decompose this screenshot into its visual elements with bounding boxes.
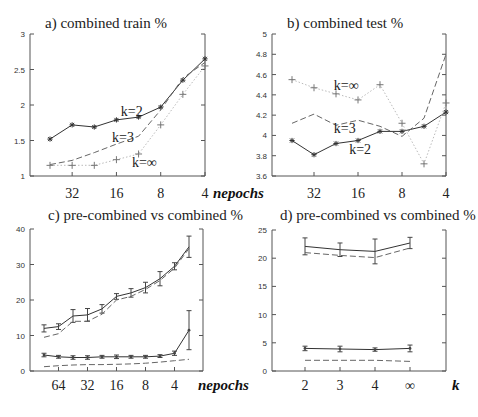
- y-tick-label: 2.5: [14, 66, 26, 75]
- series-annotation: k=2: [349, 142, 371, 157]
- y-tick-label: 2: [21, 101, 26, 110]
- data-point: [374, 348, 377, 351]
- y-tick-label: 20: [258, 254, 267, 263]
- data-point: [159, 355, 162, 358]
- y-tick-label: 3: [21, 30, 26, 39]
- y-tick-label: 4.8: [256, 50, 268, 59]
- series-k-2: [47, 56, 207, 141]
- data-point: [188, 329, 191, 332]
- series-line: [292, 54, 446, 136]
- x-tick-label: 32: [307, 186, 321, 201]
- panel-b: b) combined test %3.63.844.24.44.64.8532…: [256, 15, 450, 201]
- x-axis-label: k: [452, 377, 460, 393]
- data-point: [72, 356, 75, 359]
- series-upper-dashed: [305, 248, 410, 258]
- y-tick-label: 3.6: [256, 172, 268, 181]
- y-tick-label: 0: [263, 367, 268, 376]
- data-point: [115, 355, 118, 358]
- figure: a) combined train %11.522.53321684nepoch…: [0, 0, 478, 417]
- x-tick-label: 8: [157, 186, 164, 201]
- y-tick-label: 40: [16, 225, 25, 234]
- series-line: [305, 348, 410, 349]
- y-tick-label: 10: [258, 311, 267, 320]
- series-line: [50, 59, 205, 139]
- series-line: [305, 243, 410, 251]
- series-upper-solid: [42, 236, 192, 332]
- series-lower-dashed: [305, 360, 410, 361]
- data-point: [409, 347, 412, 350]
- data-point: [43, 354, 46, 357]
- x-tick-label: 4: [372, 378, 379, 393]
- series-annotation: k=∞: [132, 155, 157, 170]
- y-tick-label: 4.4: [256, 91, 268, 100]
- chart-title: d) pre-combined vs combined %: [280, 207, 476, 224]
- series-annotation: k=3: [334, 121, 356, 136]
- x-tick-label: 16: [110, 378, 124, 393]
- y-tick-label: 4.2: [256, 111, 268, 120]
- series-line: [305, 248, 410, 258]
- y-tick-label: 3.8: [256, 152, 268, 161]
- series-annotation: k=2: [121, 104, 143, 119]
- y-tick-label: 1.5: [14, 137, 26, 146]
- chart-title: a) combined train %: [45, 15, 167, 32]
- y-tick-label: 5: [263, 339, 268, 348]
- y-tick-label: 25: [258, 226, 267, 235]
- data-point: [101, 355, 104, 358]
- y-tick-label: 30: [16, 261, 25, 270]
- y-tick-label: 15: [258, 282, 267, 291]
- series-k-3: [292, 54, 446, 136]
- y-tick-label: 10: [16, 332, 25, 341]
- data-point: [144, 355, 147, 358]
- x-axis-label: nepochs: [213, 185, 264, 201]
- x-tick-label: 4: [202, 186, 209, 201]
- series-annotation: k=3: [112, 130, 134, 145]
- panel-c: c) pre-combined vs combined %01020304064…: [16, 207, 249, 393]
- data-point: [304, 347, 307, 350]
- x-tick-label: 3: [337, 378, 344, 393]
- data-point: [173, 352, 176, 355]
- series-upper-dashed: [44, 248, 189, 337]
- series-annotation: k=∞: [334, 78, 359, 93]
- y-tick-label: 20: [16, 296, 25, 305]
- chart-title: b) combined test %: [287, 15, 403, 32]
- data-point: [86, 356, 89, 359]
- x-tick-label: 16: [109, 186, 123, 201]
- series-lower-solid: [303, 345, 413, 352]
- x-tick-label: 64: [52, 378, 66, 393]
- x-tick-label: 8: [399, 186, 406, 201]
- x-tick-label: 4: [443, 186, 450, 201]
- series-line: [44, 330, 189, 357]
- x-tick-label: 2: [302, 378, 309, 393]
- x-tick-label: ∞: [405, 378, 415, 393]
- series-lower-dashed: [44, 359, 189, 367]
- chart-title: c) pre-combined vs combined %: [48, 207, 243, 224]
- x-tick-label: 32: [65, 186, 79, 201]
- y-tick-label: 5: [263, 30, 268, 39]
- data-point: [339, 348, 342, 351]
- y-tick-label: 4: [263, 131, 268, 140]
- series-lower-solid: [42, 311, 192, 360]
- y-tick-label: 1: [21, 172, 26, 181]
- x-axis-label: nepochs: [198, 377, 249, 393]
- x-tick-label: 16: [351, 186, 365, 201]
- y-tick-label: 4.6: [256, 71, 268, 80]
- x-tick-label: 32: [81, 378, 95, 393]
- data-point: [130, 355, 133, 358]
- series-line: [44, 359, 189, 366]
- series-line: [44, 249, 189, 338]
- series-line: [44, 247, 189, 329]
- x-tick-label: 8: [142, 378, 149, 393]
- series-upper-solid: [303, 237, 413, 264]
- x-tick-label: 4: [171, 378, 178, 393]
- series-line: [305, 360, 410, 361]
- data-point: [57, 355, 60, 358]
- panel-a: a) combined train %11.522.53321684nepoch…: [14, 15, 264, 201]
- panel-d: d) pre-combined vs combined %05101520252…: [258, 207, 476, 393]
- y-tick-label: 0: [21, 367, 26, 376]
